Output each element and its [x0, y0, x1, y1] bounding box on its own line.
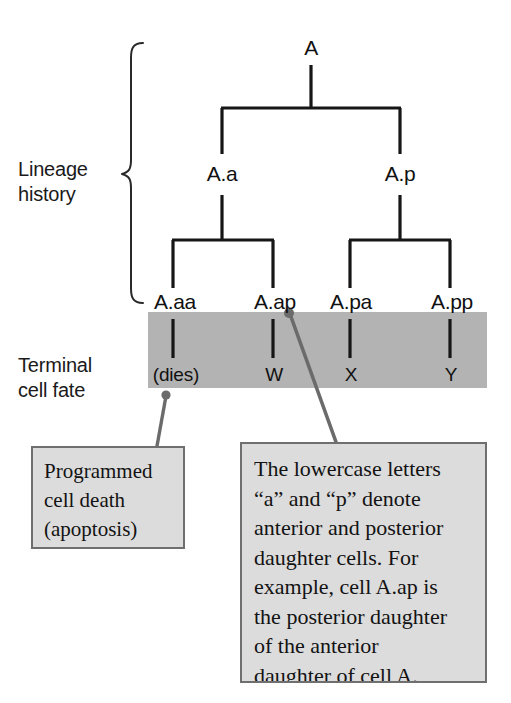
callout-apoptosis-text: Programmed cell death (apoptosis)	[44, 457, 175, 544]
fate-label-App: Y	[445, 365, 457, 384]
node-label-Aap: A.ap	[254, 291, 296, 312]
lineage-figure: Lineage history Terminal cell fate A A.a…	[0, 0, 511, 703]
node-label-App: A.pp	[431, 291, 473, 312]
callout-nomenclature: The lowercase letters “a” and “p” denote…	[240, 442, 487, 683]
lineage-history-brace	[122, 43, 143, 303]
fate-label-Aap: W	[265, 365, 283, 384]
node-label-A: A	[304, 37, 318, 58]
terminal-cell-fate-label: Terminal cell fate	[18, 353, 92, 403]
fate-label-Apa: X	[345, 365, 357, 384]
callout-apoptosis: Programmed cell death (apoptosis)	[31, 446, 185, 549]
lineage-history-label: Lineage history	[18, 157, 88, 207]
fate-label-Aaa: (dies)	[153, 365, 199, 384]
leader-dot-apoptosis	[161, 390, 170, 399]
node-label-Aa: A.a	[207, 163, 238, 184]
node-label-Ap: A.p	[385, 163, 416, 184]
node-label-Aaa: A.aa	[154, 291, 196, 312]
leader-line-apoptosis	[157, 396, 166, 446]
callout-nomenclature-text: The lowercase letters “a” and “p” denote…	[254, 454, 479, 683]
node-label-Apa: A.pa	[330, 291, 372, 312]
